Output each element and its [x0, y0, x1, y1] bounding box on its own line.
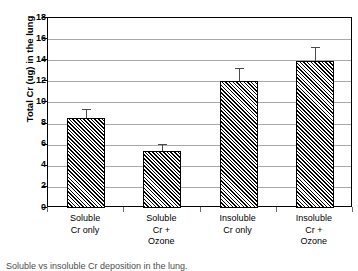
x-category-label-line: Cr + [123, 225, 199, 237]
x-tick-mark [47, 207, 48, 212]
error-bar-cap [235, 68, 244, 69]
gridline [48, 39, 351, 40]
x-category-label-line: Soluble [47, 213, 123, 225]
bar [143, 151, 181, 208]
x-tick-mark [123, 207, 124, 212]
x-tick-mark [276, 207, 277, 212]
x-category-label-line: Insoluble [200, 213, 276, 225]
x-category-label-line: Ozone [123, 236, 199, 248]
x-category-label: InsolubleCr only [200, 213, 276, 236]
x-category-label: SolubleCr +Ozone [123, 213, 199, 248]
plot-area [47, 17, 352, 207]
figure-caption: Soluble vs insoluble Cr deposition in th… [6, 261, 352, 271]
error-bar-stem [86, 109, 87, 119]
x-category-label-line: Cr only [200, 225, 276, 237]
x-category-label-line: Cr + [276, 225, 352, 237]
bar [67, 118, 105, 208]
x-category-label-line: Insoluble [276, 213, 352, 225]
x-category-label-line: Cr only [47, 225, 123, 237]
error-bar-stem [315, 47, 316, 62]
bar [296, 61, 334, 208]
x-category-label: InsolubleCr +Ozone [276, 213, 352, 248]
error-bar-stem [239, 68, 240, 82]
error-bar-cap [82, 109, 91, 110]
x-category-label: SolubleCr only [47, 213, 123, 236]
error-bar-cap [158, 144, 167, 145]
x-category-label-line: Soluble [123, 213, 199, 225]
x-tick-mark [200, 207, 201, 212]
x-category-label-line: Ozone [276, 236, 352, 248]
x-tick-mark [352, 207, 353, 212]
error-bar-stem [162, 144, 163, 151]
error-bar-cap [311, 47, 320, 48]
bar-chart-figure: Total Cr (ug) in the lung 18161412108642… [0, 0, 358, 271]
bar [220, 81, 258, 208]
